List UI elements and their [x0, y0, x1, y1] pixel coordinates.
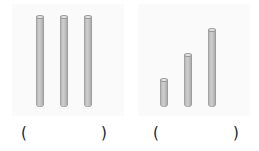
right-panel — [138, 4, 250, 116]
rod-icon — [160, 80, 168, 107]
rod-icon — [208, 30, 216, 107]
left-answer-open-paren: ( — [21, 124, 27, 142]
right-answer-close-paren: ) — [233, 124, 239, 142]
rod-icon — [36, 17, 44, 107]
left-panel — [12, 4, 124, 116]
rod-icon — [84, 17, 92, 107]
rod-icon — [184, 55, 192, 107]
rod-icon — [60, 17, 68, 107]
left-answer-close-paren: ) — [101, 124, 107, 142]
right-answer-open-paren: ( — [153, 124, 159, 142]
